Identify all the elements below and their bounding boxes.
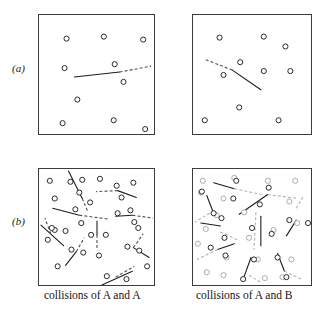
molecule-a	[284, 275, 289, 280]
molecule-a	[269, 231, 274, 236]
molecule-a	[114, 183, 119, 188]
row-label-a: (a)	[12, 62, 25, 74]
collision-outgoing-path	[268, 195, 298, 199]
collision-outgoing-path	[254, 212, 256, 249]
collision-outgoing-path	[76, 238, 84, 252]
collision-outgoing-path	[249, 275, 262, 283]
molecule-a	[104, 274, 109, 279]
molecule-a	[221, 72, 226, 77]
molecule-a	[111, 118, 116, 123]
collision-figure: (a) (b) collisions of A and A collisions…	[0, 0, 322, 312]
molecule-b	[203, 226, 208, 231]
molecule-b	[221, 273, 226, 278]
molecule-a	[137, 248, 142, 253]
panel-a-right-canvas	[193, 15, 311, 134]
molecule-a	[119, 195, 124, 200]
molecule-a	[101, 34, 106, 39]
molecule-a	[79, 221, 84, 226]
panel-a-left	[38, 14, 155, 135]
molecule-a	[69, 247, 74, 252]
molecule-a	[88, 200, 93, 205]
molecule-a	[257, 202, 262, 207]
collision-outgoing-path	[197, 250, 218, 260]
molecule-a	[275, 255, 280, 260]
collision-incoming-path	[74, 72, 119, 77]
molecule-a	[238, 60, 243, 65]
molecule-a	[145, 264, 150, 269]
collision-incoming-path	[214, 183, 235, 189]
molecule-b	[265, 178, 270, 183]
molecule-a	[276, 118, 281, 123]
panel-a-left-canvas	[39, 15, 154, 134]
molecule-a	[80, 177, 85, 182]
molecule-a	[217, 35, 222, 40]
collision-outgoing-path	[79, 215, 108, 219]
panel-b-left	[38, 168, 155, 286]
molecule-a	[199, 189, 204, 194]
row-label-b: (b)	[12, 215, 25, 227]
panel-b-left-canvas	[39, 169, 154, 285]
panel-a-right	[192, 14, 312, 135]
molecule-a	[237, 105, 242, 110]
molecule-a	[45, 237, 50, 242]
molecule-a	[223, 253, 228, 258]
molecule-b	[293, 178, 298, 183]
molecule-a	[81, 250, 86, 255]
molecule-a	[234, 178, 239, 183]
molecule-b	[204, 270, 209, 275]
molecule-a	[89, 232, 94, 237]
molecule-b	[246, 235, 251, 240]
molecule-a	[47, 178, 52, 183]
molecule-a	[128, 208, 133, 213]
collision-outgoing-path	[205, 59, 233, 70]
molecule-a	[241, 277, 246, 282]
molecule-b	[221, 196, 226, 201]
molecule-a	[288, 69, 293, 74]
molecule-a	[68, 179, 73, 184]
collision-incoming-path	[201, 223, 221, 226]
molecule-a	[283, 44, 288, 49]
molecule-a	[211, 211, 216, 216]
molecule-b	[242, 210, 247, 215]
collision-outgoing-path	[195, 213, 210, 222]
collision-outgoing-path	[296, 197, 303, 209]
molecule-a	[132, 220, 137, 225]
molecule-a	[219, 216, 224, 221]
caption-collisions-a-and-a: collisions of A and A	[44, 289, 140, 301]
molecule-a	[141, 37, 146, 42]
molecule-a	[143, 127, 148, 132]
collision-incoming-path	[218, 244, 235, 250]
molecule-a	[125, 244, 130, 249]
collision-outgoing-path	[120, 66, 151, 72]
panel-b-right-canvas	[193, 169, 311, 285]
molecule-a	[202, 118, 207, 123]
collision-incoming-path	[232, 70, 261, 90]
molecule-a	[121, 79, 126, 84]
molecule-a	[251, 257, 256, 262]
molecule-a	[136, 225, 141, 230]
molecule-a	[60, 121, 65, 126]
molecule-a	[62, 66, 67, 71]
molecule-a	[49, 225, 54, 230]
collision-incoming-path	[66, 252, 77, 266]
molecule-a	[115, 211, 120, 216]
molecule-a	[287, 218, 292, 223]
molecule-b	[200, 178, 205, 183]
panel-b-right	[192, 168, 312, 286]
molecule-a	[96, 253, 101, 258]
molecule-a	[131, 180, 136, 185]
molecule-a	[208, 245, 213, 250]
collision-outgoing-path	[234, 189, 262, 195]
molecule-a	[97, 176, 102, 181]
molecule-b	[287, 199, 292, 204]
collision-outgoing-path	[96, 191, 118, 192]
molecule-a	[64, 36, 69, 41]
molecule-a	[112, 62, 117, 67]
collision-outgoing-path	[132, 215, 153, 218]
molecule-a	[305, 221, 310, 226]
molecule-a	[75, 97, 80, 102]
molecule-b	[295, 221, 300, 226]
molecule-a	[249, 225, 254, 230]
molecule-a	[103, 232, 108, 237]
molecule-a	[124, 277, 129, 282]
